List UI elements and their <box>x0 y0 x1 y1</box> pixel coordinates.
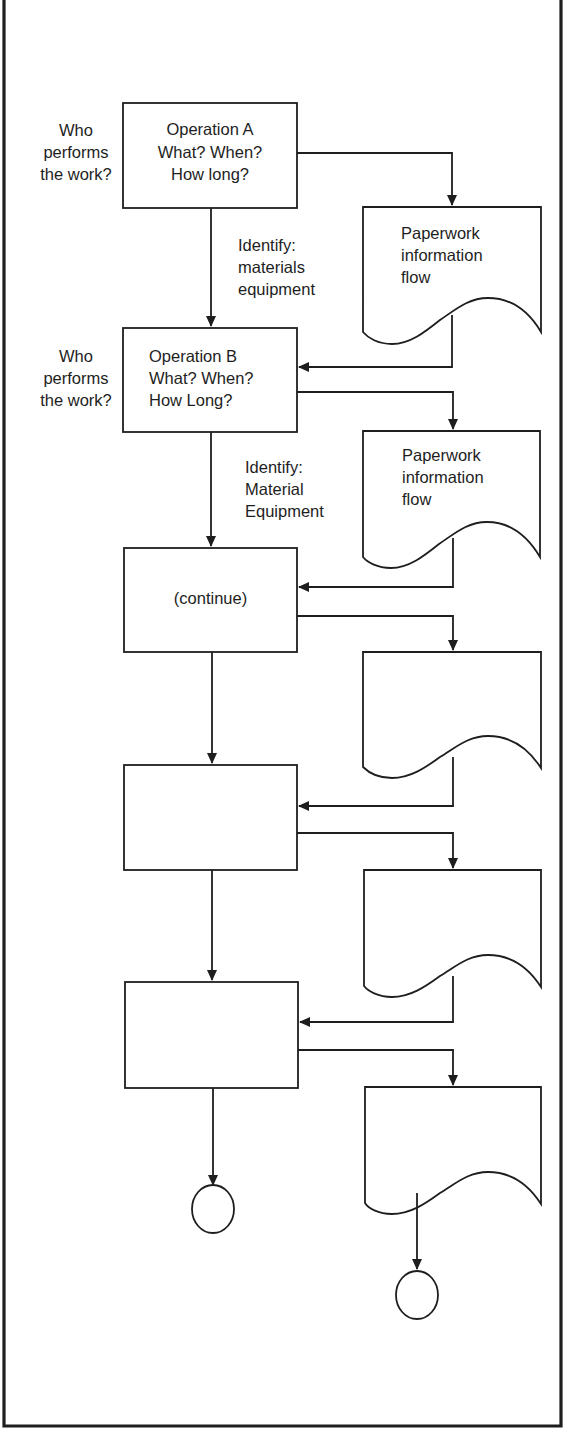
flowchart-canvas <box>0 0 569 1430</box>
document-b-text: Paperwork information flow <box>402 444 484 510</box>
document-e <box>365 1087 541 1214</box>
terminator-operations <box>192 1185 234 1233</box>
outer-border <box>4 0 561 1426</box>
operation-box-5 <box>125 982 298 1088</box>
terminator-paperwork <box>396 1271 438 1319</box>
identify-label-a: Identify: materials equipment <box>238 234 315 300</box>
who-label-b: Who performs the work? <box>35 345 117 411</box>
identify-label-b: Identify: Material Equipment <box>245 456 324 522</box>
operation-a-text: Operation A What? When? How long? <box>123 118 297 185</box>
flowchart-frame: Who performs the work? Who performs the … <box>0 0 569 1430</box>
document-a-text: Paperwork information flow <box>401 222 483 288</box>
document-c <box>363 652 541 778</box>
operation-box-4 <box>124 765 297 870</box>
operation-b-text: Operation B What? When? How Long? <box>149 345 254 411</box>
who-label-a: Who performs the work? <box>35 119 117 185</box>
operation-continue-text: (continue) <box>124 587 297 609</box>
